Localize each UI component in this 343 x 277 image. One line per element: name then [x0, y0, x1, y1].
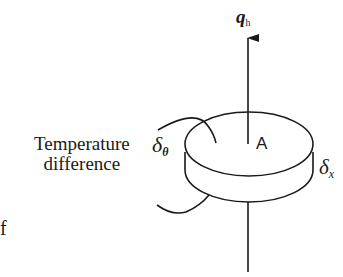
area-label: A	[256, 135, 267, 152]
delta-theta-symbol: δ	[152, 132, 162, 157]
temperature-bracket-lower	[157, 195, 209, 213]
disk-body	[185, 112, 313, 202]
heat-flux-subscript: h	[246, 17, 251, 28]
temperature-difference-label: Temperature difference	[34, 134, 130, 174]
heat-flux-label: qh	[236, 7, 251, 28]
heat-flux-symbol: q	[236, 6, 246, 27]
delta-x-label: δx	[319, 157, 334, 180]
temperature-text-line1: Temperature	[34, 134, 130, 154]
temperature-text-line2: difference	[34, 154, 130, 174]
clipped-text-fragment: f	[0, 218, 7, 238]
delta-theta-label: δθ	[152, 134, 168, 158]
diagram-canvas: qh A Temperature difference δθ δx f	[0, 0, 343, 277]
delta-x-symbol: δ	[319, 155, 329, 179]
delta-theta-subscript: θ	[162, 145, 168, 159]
delta-x-subscript: x	[329, 167, 334, 181]
